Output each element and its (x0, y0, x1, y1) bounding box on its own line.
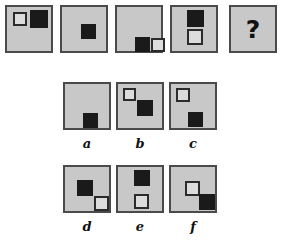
prompt-3-white-square-2 (151, 38, 165, 52)
prompt-panel-1 (5, 5, 53, 53)
prompt-1-black-square-2 (30, 10, 48, 28)
option-a-label: a (63, 136, 111, 151)
prompt-panel-5: ? (229, 5, 277, 53)
option-a[interactable] (63, 82, 111, 130)
prompt-4-black-square-1 (187, 10, 204, 27)
option-e-label: e (116, 219, 164, 234)
option-c-black-square-2 (188, 112, 203, 127)
option-d-white-square-2 (94, 196, 109, 211)
option-a-black-square-1 (83, 113, 98, 128)
option-d-label: d (63, 219, 111, 234)
option-f-label: f (169, 219, 217, 234)
option-d[interactable] (63, 165, 111, 213)
prompt-panel-2 (60, 5, 108, 53)
option-f-white-square-1 (185, 181, 200, 196)
option-c-label: c (169, 136, 217, 151)
option-c[interactable] (169, 82, 217, 130)
option-f[interactable] (169, 165, 217, 213)
prompt-4-white-square-2 (187, 29, 203, 45)
option-b-white-square-1 (123, 88, 136, 101)
prompt-1-white-square-1 (13, 12, 27, 26)
question-mark-icon: ? (231, 7, 275, 51)
option-c-white-square-1 (176, 88, 190, 102)
option-e-white-square-2 (134, 194, 149, 209)
option-e[interactable] (116, 165, 164, 213)
prompt-3-black-square-1 (135, 37, 150, 52)
option-b[interactable] (116, 82, 164, 130)
prompt-panel-4 (170, 5, 218, 53)
option-f-black-square-2 (199, 194, 215, 210)
option-b-black-square-2 (137, 100, 153, 116)
option-b-label: b (116, 136, 164, 151)
option-d-black-square-1 (77, 180, 93, 196)
prompt-2-black-square-1 (81, 24, 96, 39)
option-e-black-square-1 (134, 170, 150, 186)
prompt-panel-3 (115, 5, 163, 53)
